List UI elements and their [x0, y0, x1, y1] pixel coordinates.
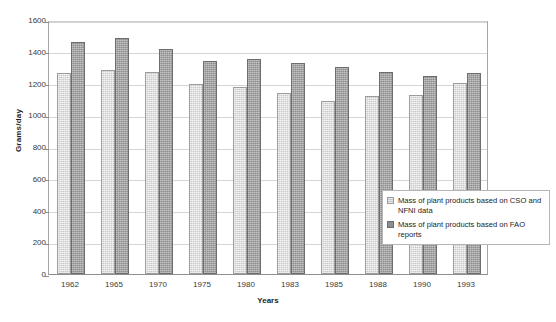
bar[interactable] [189, 84, 203, 275]
x-axis-tick-label: 1990 [399, 280, 445, 289]
y-axis-tick [45, 180, 49, 181]
y-axis-tick [45, 149, 49, 150]
y-axis-tick-label: 600 [12, 176, 46, 184]
y-axis-tick [45, 244, 49, 245]
x-axis-title: Years [48, 296, 488, 305]
bar[interactable] [145, 72, 159, 274]
bar[interactable] [291, 63, 305, 274]
x-axis-tick-label: 1993 [443, 280, 489, 289]
legend-item-label: Mass of plant products based on FAO repo… [398, 220, 545, 239]
x-axis-tick-label: 1988 [355, 280, 401, 289]
x-axis-tick-label: 1962 [47, 280, 93, 289]
bar[interactable] [277, 93, 291, 274]
y-axis-tick-label: 1600 [12, 17, 46, 25]
y-axis-tick-label: 800 [12, 144, 46, 152]
x-axis-tick-label: 1970 [135, 280, 181, 289]
bar[interactable] [233, 87, 247, 274]
x-axis-tick-label: 1965 [91, 280, 137, 289]
bar[interactable] [57, 73, 71, 274]
bar-group [145, 22, 173, 274]
legend-item[interactable]: Mass of plant products based on FAO repo… [387, 220, 545, 239]
bar[interactable] [159, 49, 173, 274]
bar-chart: Grams/day 02004006008001000120014001600 … [0, 0, 556, 322]
bar-group [277, 22, 305, 274]
bar[interactable] [247, 59, 261, 274]
bar-group [57, 22, 85, 274]
bar[interactable] [409, 95, 423, 274]
legend-item[interactable]: Mass of plant products based on CSO and … [387, 196, 545, 215]
y-axis-tick [45, 22, 49, 23]
bar-group [233, 22, 261, 274]
dark-swatch-icon [387, 221, 394, 228]
bar[interactable] [453, 83, 467, 274]
y-axis-tick [45, 85, 49, 86]
y-axis-tick [45, 276, 49, 277]
bar-group [101, 22, 129, 274]
y-axis-tick-label: 200 [12, 239, 46, 247]
bar[interactable] [203, 61, 217, 274]
bar-group [189, 22, 217, 274]
light-swatch-icon [387, 197, 394, 204]
y-axis-tick-label: 1400 [12, 49, 46, 57]
x-axis-tick-label: 1985 [311, 280, 357, 289]
y-axis-tick [45, 117, 49, 118]
bar[interactable] [321, 101, 335, 274]
bar[interactable] [335, 67, 349, 274]
y-axis-tick-label: 1000 [12, 112, 46, 120]
y-axis-tick-label: 1200 [12, 81, 46, 89]
bar[interactable] [101, 70, 115, 274]
x-axis-tick-label: 1975 [179, 280, 225, 289]
y-axis-tick-label: 0 [12, 271, 46, 279]
bar[interactable] [71, 42, 85, 274]
bar-group [321, 22, 349, 274]
bar[interactable] [365, 96, 379, 274]
y-axis-tick [45, 212, 49, 213]
x-axis-tick-label: 1983 [267, 280, 313, 289]
legend-item-label: Mass of plant products based on CSO and … [398, 196, 545, 215]
bar[interactable] [115, 38, 129, 274]
y-axis-tick-labels: 02004006008001000120014001600 [8, 0, 46, 322]
y-axis-tick [45, 53, 49, 54]
y-axis-tick-label: 400 [12, 208, 46, 216]
chart-legend: Mass of plant products based on CSO and … [382, 190, 550, 245]
x-axis-tick-label: 1980 [223, 280, 269, 289]
